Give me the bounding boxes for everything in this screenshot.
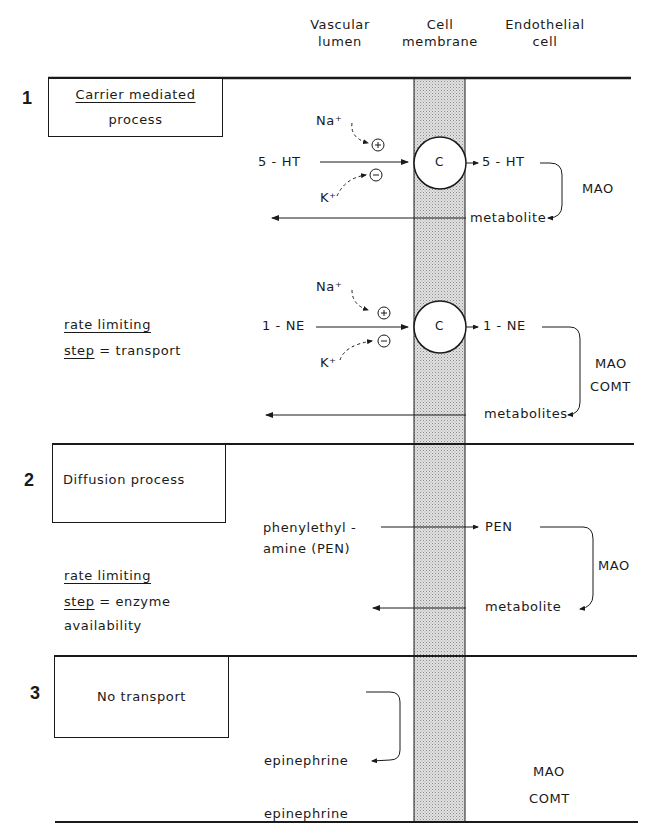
step-word-2: step — [64, 594, 95, 609]
enzyme-comt-2: COMT — [590, 379, 631, 394]
substrate-5ht-cell: 5 - HT — [482, 154, 525, 169]
enzyme-mao-2: MAO — [595, 356, 627, 371]
section-2-label-box: Diffusion process — [52, 444, 226, 523]
section-1-label-box: Carrier mediated process — [48, 78, 223, 137]
section-number-3: 3 — [30, 683, 40, 704]
header-cell-line2: cell — [492, 33, 598, 50]
header-membrane-line1: Cell — [390, 16, 490, 33]
step-rest-1: = transport — [95, 343, 181, 358]
substrate-pen-lumen-line1: phenylethyl - — [263, 520, 356, 535]
k-ion-label-1: K⁺ — [320, 190, 337, 205]
enzyme-mao-1: MAO — [582, 181, 614, 196]
section-number-2: 2 — [24, 470, 34, 491]
header-lumen-line2: lumen — [295, 33, 385, 50]
carrier-label-1: C — [435, 155, 444, 169]
na-ion-label-2: Na⁺ — [316, 279, 342, 294]
section-number-1: 1 — [22, 88, 32, 109]
section-3-label-box: No transport — [54, 656, 229, 738]
substrate-pen-lumen-line2: amine (PEN) — [263, 541, 350, 556]
header-vascular-lumen: Vascular lumen — [295, 16, 385, 50]
enzyme-comt-4: COMT — [529, 791, 570, 806]
substrate-5ht-lumen: 5 - HT — [258, 154, 301, 169]
substrate-pen-cell: PEN — [485, 519, 513, 534]
section-1-title-line1: Carrier mediated — [49, 82, 222, 107]
metabolite-label-1: metabolite — [470, 210, 546, 225]
step-word-1: step — [64, 343, 95, 358]
metabolite-label-3: metabolite — [485, 599, 561, 614]
enzyme-mao-3: MAO — [598, 558, 630, 573]
section-2-note-line1: rate limiting — [64, 568, 151, 583]
epinephrine-in: epinephrine — [264, 753, 348, 768]
header-cell-line1: Endothelial — [492, 16, 598, 33]
na-ion-label-1: Na⁺ — [316, 113, 342, 128]
step-rest-2: = enzyme — [95, 594, 171, 609]
enzyme-mao-4: MAO — [533, 764, 565, 779]
section-1-note-line2: step = transport — [64, 343, 181, 358]
substrate-ne-lumen: 1 - NE — [262, 318, 305, 333]
header-endothelial-cell: Endothelial cell — [492, 16, 598, 50]
carrier-label-2: C — [435, 319, 444, 333]
section-2-note-line3: availability — [64, 618, 142, 633]
k-ion-label-2: K⁺ — [320, 355, 337, 370]
header-membrane-line2: membrane — [390, 33, 490, 50]
section-1-note-line1: rate limiting — [64, 317, 151, 332]
substrate-ne-cell: 1 - NE — [483, 318, 526, 333]
metabolites-label-2: metabolites — [484, 406, 568, 421]
section-2-note-line2: step = enzyme — [64, 594, 171, 609]
epinephrine-out: epinephrine — [264, 806, 348, 821]
section-3-title: No transport — [55, 684, 228, 709]
section-2-title: Diffusion process — [53, 467, 225, 492]
header-lumen-line1: Vascular — [295, 16, 385, 33]
section-1-title-line2: process — [49, 107, 222, 132]
header-cell-membrane: Cell membrane — [390, 16, 490, 50]
